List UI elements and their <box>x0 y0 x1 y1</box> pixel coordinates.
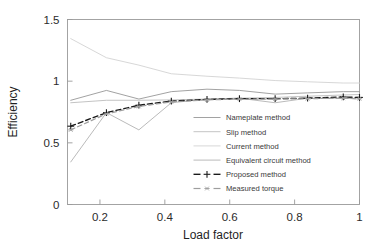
legend-label: Nameplate method <box>226 113 290 122</box>
series-path <box>71 98 360 130</box>
x-tick-label-0.4: 0.4 <box>157 211 174 223</box>
legend-entry-slip-method[interactable]: Slip method <box>194 128 267 137</box>
series-proposed-method <box>67 94 363 130</box>
series-current-method <box>71 39 360 83</box>
legend-label: Slip method <box>226 128 266 137</box>
series-path <box>71 39 360 83</box>
legend-entry-current-method[interactable]: Current method <box>194 142 279 151</box>
legend-entry-measured-torque[interactable]: Measured torque <box>194 184 284 193</box>
chart-legend: Nameplate methodSlip methodCurrent metho… <box>194 113 311 193</box>
x-axis-ticks <box>100 200 360 205</box>
x-tick-label-0.8: 0.8 <box>287 211 303 223</box>
legend-label: Proposed method <box>226 170 286 179</box>
efficiency-load-factor-chart: 0.20.40.60.81 00.511.5 Nameplate methodS… <box>0 0 381 252</box>
y-axis-title: Efficiency <box>6 86 20 137</box>
legend-label: Current method <box>226 142 279 151</box>
y-tick-label-1.5: 1.5 <box>44 14 60 26</box>
x-axis-tick-labels: 0.20.40.60.81 <box>92 211 363 223</box>
x-axis-title: Load factor <box>183 228 243 242</box>
y-axis-tick-labels: 00.511.5 <box>44 14 60 211</box>
x-tick-label-0.6: 0.6 <box>222 211 238 223</box>
legend-entry-equivalent-circuit-method[interactable]: Equivalent circuit method <box>194 156 311 165</box>
chart-container: 0.20.40.60.81 00.511.5 Nameplate methodS… <box>0 0 381 252</box>
y-axis-ticks <box>68 20 73 205</box>
x-tick-label-1: 1 <box>356 211 362 223</box>
series-path <box>71 98 360 162</box>
legend-entry-proposed-method[interactable]: Proposed method <box>194 170 286 179</box>
series-equivalent-circuit-method <box>71 98 360 162</box>
legend-entry-nameplate-method[interactable]: Nameplate method <box>194 113 291 122</box>
y-tick-label-0: 0 <box>53 199 59 211</box>
series-measured-torque <box>68 96 362 131</box>
y-tick-label-1: 1 <box>53 75 59 87</box>
legend-label: Measured torque <box>226 184 283 193</box>
series-group <box>67 39 363 162</box>
y-tick-label-0.5: 0.5 <box>44 137 60 149</box>
x-tick-label-0.2: 0.2 <box>92 211 108 223</box>
legend-label: Equivalent circuit method <box>226 156 311 165</box>
